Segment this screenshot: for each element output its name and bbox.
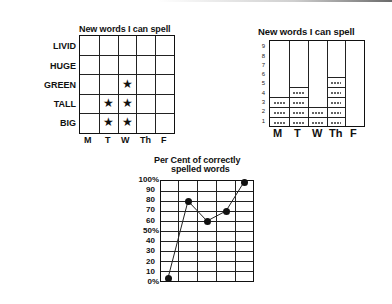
line-series <box>0 0 392 304</box>
data-point-m <box>165 275 172 282</box>
data-point-t <box>185 198 192 205</box>
data-point-w <box>204 218 211 225</box>
data-point-f <box>241 179 248 186</box>
data-point-th <box>223 208 230 215</box>
